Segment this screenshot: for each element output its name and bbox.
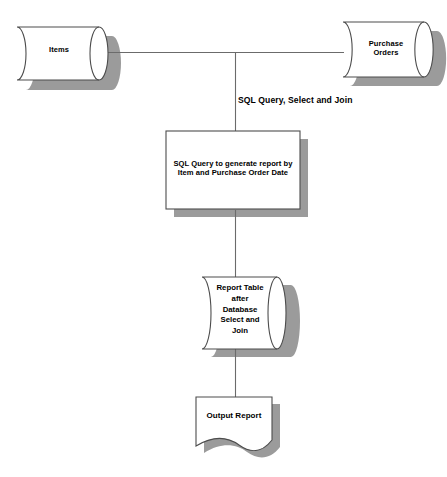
shadow-layer [26,31,446,457]
flowchart-canvas: Items Purchase Orders SQL Query, Select … [0,0,447,477]
report-table-db-shape [202,277,286,349]
flowchart-graphics [0,0,447,477]
process-box-shape [166,131,300,209]
items-db-shape [17,27,108,80]
purchase-orders-db-shape [343,22,433,77]
